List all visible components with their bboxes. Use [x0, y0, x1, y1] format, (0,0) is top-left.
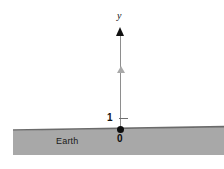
tick-mark-one	[119, 118, 128, 119]
origin-point-dot	[117, 126, 124, 133]
y-axis-line	[120, 33, 121, 131]
mid-axis-triangle-marker	[117, 66, 125, 73]
earth-label: Earth	[56, 136, 79, 146]
physics-diagram: Earth y 1 0	[0, 0, 224, 169]
y-axis-label: y	[117, 10, 121, 21]
up-arrow-icon	[116, 27, 124, 36]
tick-label-one: 1	[107, 112, 113, 123]
origin-label-zero: 0	[117, 133, 123, 144]
